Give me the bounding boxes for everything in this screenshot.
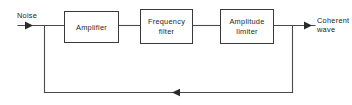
block-frequency-filter[interactable]: Frequency filter [141, 10, 193, 44]
output-label-line1: Coherent [317, 16, 349, 25]
input-label-noise: Noise [17, 11, 37, 20]
block-diagram: Amplifier Frequency filter Amplitude lim… [0, 0, 352, 105]
block-amplifier-label: Amplifier [76, 23, 107, 32]
output-label-line2: wave [316, 25, 335, 34]
input-arrow-icon [25, 22, 33, 30]
output-arrow-icon [304, 22, 312, 30]
block-frequency-filter-label-line2: filter [159, 27, 175, 36]
block-amplitude-limiter-label-line2: limiter [236, 27, 258, 36]
block-amplitude-limiter-label-line1: Amplitude [229, 17, 264, 26]
feedback-arrow-icon [172, 89, 180, 97]
diagram-canvas: Amplifier Frequency filter Amplitude lim… [0, 0, 352, 105]
block-amplitude-limiter[interactable]: Amplitude limiter [221, 10, 274, 44]
block-amplifier[interactable]: Amplifier [65, 12, 119, 43]
block-frequency-filter-label-line1: Frequency [148, 17, 185, 26]
